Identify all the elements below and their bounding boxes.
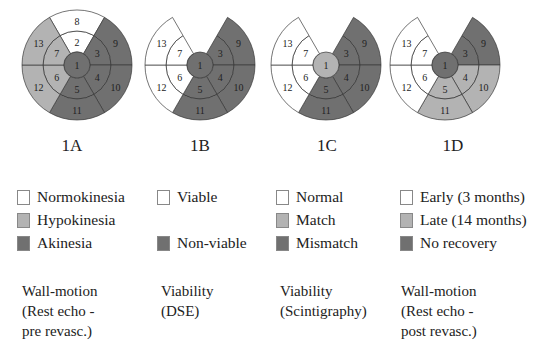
segment-number: 4 — [95, 72, 100, 83]
segment-number: 10 — [111, 82, 121, 93]
segment-number: 5 — [324, 84, 329, 95]
segment-number: 4 — [463, 72, 468, 83]
caption-viability-scintigraphy: Viability (Scintigraphy) — [280, 281, 367, 321]
swatch-match — [276, 213, 289, 228]
segment-number: 6 — [422, 72, 427, 83]
segment-number: 6 — [303, 72, 308, 83]
segment-number: 4 — [218, 72, 223, 83]
segment-number: 9 — [113, 38, 118, 49]
segment-number: 11 — [440, 105, 450, 116]
segment-number: 13 — [156, 38, 166, 49]
segment-number: 4 — [344, 72, 349, 83]
segment-number: 3 — [95, 48, 100, 59]
diagram-label-1a: 1A — [52, 136, 92, 156]
segment-number: 5 — [443, 84, 448, 95]
caption-viability-dse: Viability (DSE) — [161, 281, 213, 321]
segment-number: 9 — [362, 38, 367, 49]
caption-wall-motion-post: Wall-motion (Rest echo - post revasc.) — [401, 281, 477, 341]
segment-number: 12 — [156, 82, 166, 93]
segment-number: 1 — [198, 60, 203, 71]
segment-number: 2 — [75, 37, 80, 48]
segment-number: 12 — [282, 82, 292, 93]
segment-number: 1 — [443, 60, 448, 71]
segment-number: 11 — [195, 105, 205, 116]
segment-number: 8 — [75, 16, 80, 27]
segment-number: 9 — [481, 38, 486, 49]
segment-number: 13 — [33, 38, 43, 49]
swatch-normokinesia — [17, 190, 30, 205]
swatch-early — [400, 190, 413, 205]
segment-number: 7 — [303, 48, 308, 59]
segment-number: 10 — [234, 82, 244, 93]
swatch-no-recovery — [400, 236, 413, 251]
diagram-label-1c: 1C — [307, 136, 347, 156]
segment-number: 3 — [344, 48, 349, 59]
swatch-viable — [157, 190, 170, 205]
swatch-akinesia — [17, 236, 30, 251]
swatch-non-viable — [157, 236, 170, 251]
segment-number: 11 — [72, 105, 82, 116]
segment-number: 7 — [177, 48, 182, 59]
segment-number: 6 — [177, 72, 182, 83]
segment-number: 9 — [236, 38, 241, 49]
swatch-late — [400, 213, 413, 228]
swatch-normal — [276, 190, 289, 205]
segment-number: 5 — [198, 84, 203, 95]
caption-wall-motion-pre: Wall-motion (Rest echo - pre revasc.) — [22, 281, 97, 341]
segment-number: 10 — [479, 82, 489, 93]
segment-number: 7 — [54, 48, 59, 59]
diagram-label-1d: 1D — [433, 136, 473, 156]
segment-number: 3 — [218, 48, 223, 59]
segment-number: 13 — [401, 38, 411, 49]
segment-number: 11 — [321, 105, 331, 116]
swatch-hypokinesia — [17, 213, 30, 228]
swatch-mismatch — [276, 236, 289, 251]
segment-number: 1 — [75, 60, 80, 71]
segment-number: 13 — [282, 38, 292, 49]
segment-number: 12 — [401, 82, 411, 93]
segment-number: 7 — [422, 48, 427, 59]
segment-number: 3 — [463, 48, 468, 59]
segment-number: 5 — [75, 84, 80, 95]
segment-number: 12 — [33, 82, 43, 93]
diagram-label-1b: 1B — [180, 136, 220, 156]
segment-number: 6 — [54, 72, 59, 83]
segment-number: 1 — [324, 60, 329, 71]
segment-number: 10 — [360, 82, 370, 93]
